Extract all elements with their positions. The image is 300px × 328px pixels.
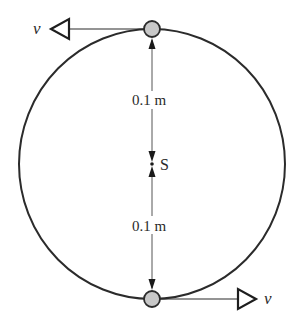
center-of-mass-dot xyxy=(150,162,154,166)
arrowhead-up-icon xyxy=(149,38,156,49)
bottom-star xyxy=(144,291,160,307)
lower-distance-label: 0.1 m xyxy=(132,218,167,234)
arrowhead-down-icon xyxy=(149,151,156,162)
arrowhead-down-icon xyxy=(149,279,156,290)
arrowhead-left-icon xyxy=(51,19,69,39)
arrowhead-up-icon xyxy=(149,166,156,177)
top-star xyxy=(144,21,160,37)
upper-distance-label: 0.1 m xyxy=(132,92,167,108)
bottom-velocity-label: v xyxy=(264,289,272,308)
binary-star-orbit-diagram: v v 0.1 m 0.1 m S xyxy=(0,0,300,328)
top-velocity-label: v xyxy=(33,19,41,38)
bottom-velocity-arrow xyxy=(152,289,256,309)
center-of-mass-label: S xyxy=(160,156,169,173)
arrowhead-right-icon xyxy=(238,289,256,309)
top-velocity-arrow xyxy=(51,19,152,39)
